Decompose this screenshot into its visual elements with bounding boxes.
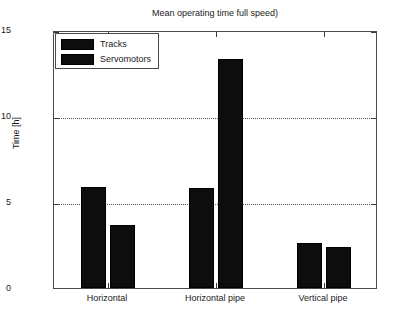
plot-area: Tracks Servomotors xyxy=(53,31,377,289)
legend-label-servomotors: Servomotors xyxy=(100,54,151,65)
legend-swatch-tracks xyxy=(61,39,94,50)
bar-tracks-horizontal-pipe xyxy=(189,188,214,288)
y-tick-label: 5 xyxy=(0,197,11,207)
y-tick-label: 15 xyxy=(0,25,11,35)
x-tick-mark xyxy=(216,32,217,37)
chart-title: Mean operating time full speed) xyxy=(53,8,377,19)
x-tick-label: Vertical pipe xyxy=(298,293,347,303)
legend-item-servomotors: Servomotors xyxy=(61,53,151,66)
x-tick-mark xyxy=(108,283,109,288)
legend-item-tracks: Tracks xyxy=(61,38,127,51)
legend-label-tracks: Tracks xyxy=(100,39,127,50)
y-tick-mark xyxy=(371,32,376,33)
bar-tracks-vertical-pipe xyxy=(297,243,322,288)
legend: Tracks Servomotors xyxy=(55,33,159,69)
y-tick-mark xyxy=(371,204,376,205)
x-tick-label: Horizontal xyxy=(87,293,128,303)
y-axis-title: Time [h] xyxy=(11,93,21,173)
x-tick-mark xyxy=(324,32,325,37)
legend-swatch-servomotors xyxy=(61,54,94,65)
y-tick-label: 0 xyxy=(0,283,11,293)
x-tick-label: Horizontal pipe xyxy=(185,293,245,303)
bar-servomotors-horizontal xyxy=(110,225,135,288)
bar-servomotors-vertical-pipe xyxy=(326,247,351,288)
y-tick-label: 10 xyxy=(0,111,11,121)
x-tick-mark xyxy=(216,283,217,288)
bar-tracks-horizontal xyxy=(81,187,106,288)
y-tick-mark xyxy=(54,118,59,119)
figure-canvas: Mean operating time full speed) Time [h]… xyxy=(0,0,393,318)
bar-servomotors-horizontal-pipe xyxy=(218,59,243,288)
y-tick-mark xyxy=(54,204,59,205)
gridline xyxy=(54,118,376,119)
x-tick-mark xyxy=(324,283,325,288)
y-tick-mark xyxy=(371,118,376,119)
